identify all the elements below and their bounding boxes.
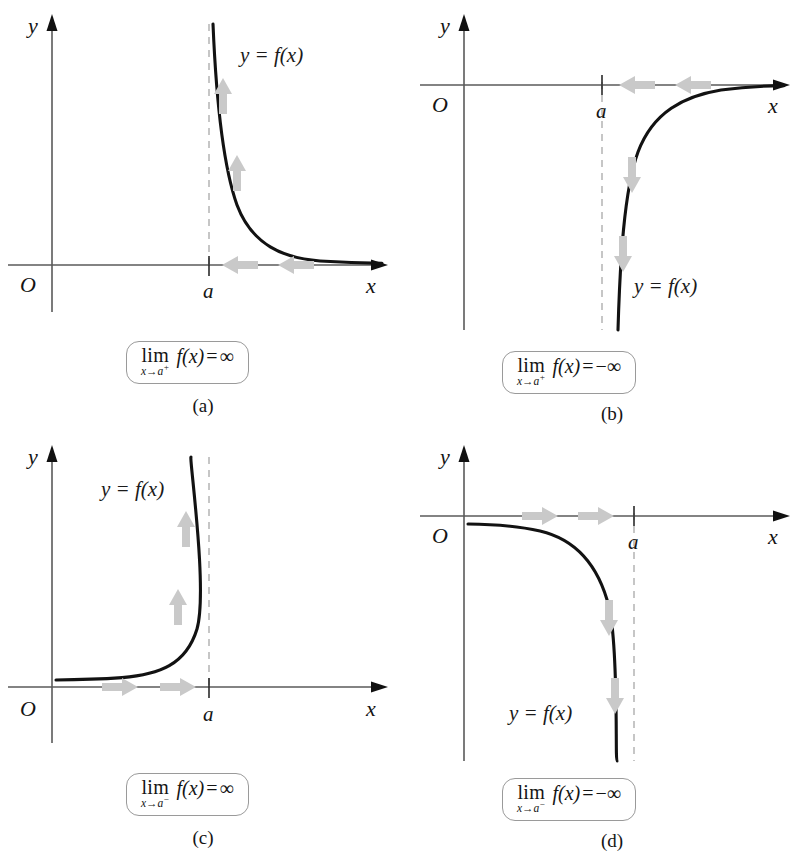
motion-arrow-x-c-2 [160,678,196,696]
motion-arrow-x-d-1 [522,507,558,525]
limit-equals-b: = [580,355,595,377]
y-axis-a [47,14,58,312]
panel-b-plot: y x O a [406,0,811,340]
panel-d: y x O a [406,431,811,862]
limit-sub-arrow-d: → [522,802,534,814]
y-axis-label-a: y [26,13,38,38]
limit-operator-c: lim x→a− [141,777,169,810]
limit-sub-side-b: + [539,372,545,382]
limit-sub-arrow-a: → [146,365,158,377]
motion-arrow-curve-c-1 [177,511,195,547]
limit-subscript-c: x→a− [141,798,169,810]
limit-equals-a: = [204,345,219,367]
limit-subscript-b: x→a+ [517,376,545,388]
limit-body-a: f(x)=∞ [176,345,233,366]
origin-label-c: O [20,696,36,721]
origin-label-d: O [432,523,448,548]
x-axis-label-c: x [365,696,376,721]
y-axis-label-c: y [26,444,38,469]
motion-arrow-curve-b-1 [623,157,641,193]
origin-label-a: O [20,272,36,297]
limit-sub-side-c: − [163,794,169,804]
x-axis-label-b: x [767,93,778,118]
curve-label-c: y = f(x) [99,477,164,501]
x-axis-label-d: x [767,524,778,549]
y-axis-label-d: y [438,444,450,469]
motion-arrow-x-b-1 [619,76,655,94]
y-axis-b [459,14,470,330]
limit-operator-a: lim x→a+ [141,345,169,378]
asymptote-label-d: a [628,530,639,554]
limit-operator-d: lim x→a− [517,782,545,815]
limit-body-c: f(x)=∞ [176,777,233,798]
motion-arrow-x-d-2 [578,507,614,525]
panel-a-plot: y x O a [0,0,406,340]
origin-label-b: O [432,92,448,117]
limit-equals-d: = [580,782,595,804]
limit-value-a: ∞ [219,345,233,367]
limit-fn-a: f(x) [176,345,204,367]
motion-arrow-curve-d-2 [606,678,624,714]
limit-box-a: lim x→a+ f(x)=∞ [126,341,249,384]
y-axis-d [459,445,470,761]
x-axis-c [8,682,388,693]
motion-arrow-curve-b-2 [614,236,632,272]
curve-label-a: y = f(x) [238,43,303,67]
y-axis-label-b: y [438,13,450,38]
limit-body-b: f(x)=−∞ [552,355,621,376]
limit-subscript-d: x→a− [517,803,545,815]
panel-d-plot: y x O a [406,431,811,771]
motion-arrow-curve-d-1 [600,600,618,636]
limit-sub-side-a: + [163,362,169,372]
asymptote-label-c: a [203,702,214,726]
curve-label-b: y = f(x) [632,274,697,298]
limit-fn-b: f(x) [552,355,580,377]
panel-caption-c: (c) [163,827,243,849]
limit-sub-arrow-c: → [146,797,158,809]
panel-caption-d: (d) [572,830,652,852]
limit-sub-side-d: − [539,799,545,809]
panel-c-plot: y x O a [0,431,406,771]
x-axis-label-a: x [365,273,376,298]
limit-fn-c: f(x) [176,777,204,799]
motion-arrow-x-b-2 [675,76,711,94]
panel-b: y x O a [406,0,811,431]
curve-label-d: y = f(x) [507,701,572,725]
limit-value-c: ∞ [219,777,233,799]
panel-a: y x O a [0,0,406,431]
motion-arrow-x-a-1 [222,256,258,274]
motion-arrow-x-c-1 [102,678,138,696]
limit-equals-c: = [204,777,219,799]
asymptote-label-a: a [203,279,214,303]
asymptote-label-b: a [596,99,607,123]
function-curve-d [468,524,617,761]
panel-c: y x O a [0,431,406,862]
limit-box-c: lim x→a− f(x)=∞ [126,773,249,816]
limit-box-d: lim x→a− f(x)=−∞ [502,778,636,821]
limit-sub-arrow-b: → [522,375,534,387]
limit-box-b: lim x→a+ f(x)=−∞ [502,351,636,394]
limit-operator-b: lim x→a+ [517,355,545,388]
limit-value-d: −∞ [595,782,621,804]
y-axis-c [47,445,58,743]
motion-arrow-curve-c-2 [169,589,187,625]
limit-value-b: −∞ [595,355,621,377]
limit-body-d: f(x)=−∞ [552,782,621,803]
limit-fn-d: f(x) [552,782,580,804]
panel-caption-a: (a) [163,395,243,417]
limit-subscript-a: x→a+ [141,366,169,378]
limit-figure-grid: y x O a [0,0,811,862]
panel-caption-b: (b) [572,403,652,425]
